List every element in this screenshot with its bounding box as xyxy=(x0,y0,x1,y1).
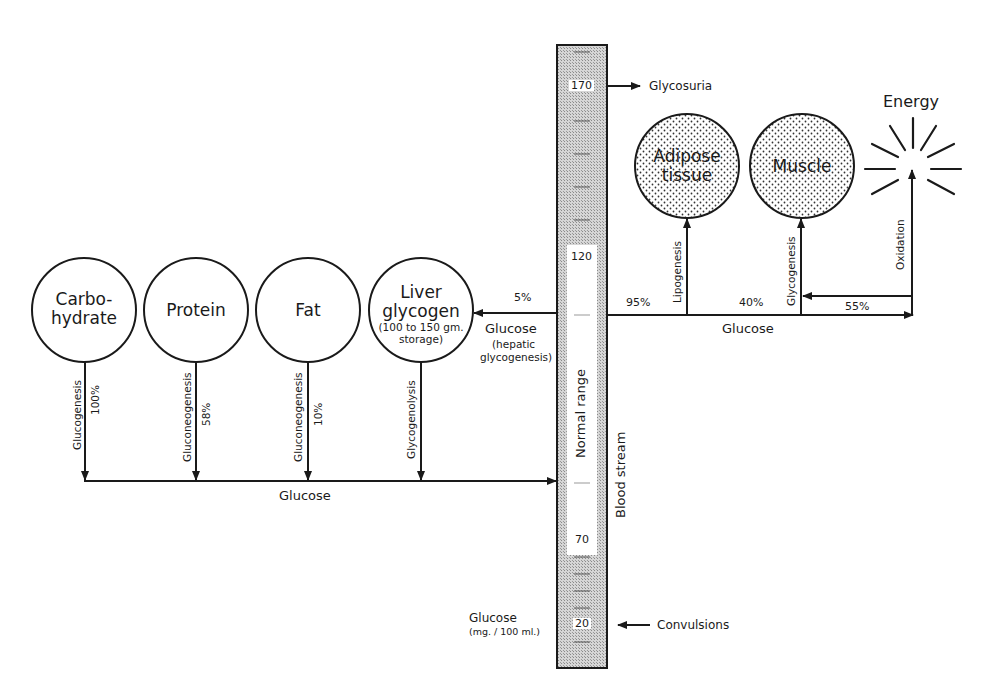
tick-170: 170 xyxy=(569,80,594,91)
glucogenesis-percent: 100% xyxy=(90,385,101,415)
adipose-label-line2: tissue xyxy=(637,166,737,185)
tick-120: 120 xyxy=(569,251,594,262)
fat-percent: 10% xyxy=(313,403,324,426)
normal-range-label: Normal range xyxy=(574,369,587,458)
carbohydrate-label-line1: Carbo- xyxy=(34,290,134,309)
hepatic-sub1: (hepatic xyxy=(492,339,535,350)
bloodstream-column xyxy=(557,45,607,668)
protein-percent: 58% xyxy=(201,403,212,426)
glucose-axis-unit: (mg. / 100 ml.) xyxy=(469,627,540,637)
oxidation-label: Oxidation xyxy=(895,219,906,270)
fat-label-text: Fat xyxy=(258,301,358,320)
convulsions-label: Convulsions xyxy=(657,619,729,631)
right-percent-95: 95% xyxy=(626,297,650,308)
lipogenesis-label: Lipogenesis xyxy=(672,241,683,303)
hepatic-glucose-label: Glucose xyxy=(485,322,537,335)
energy-label: Energy xyxy=(883,94,939,110)
glycosuria-label: Glycosuria xyxy=(649,80,712,92)
liver-label-line1: Liver xyxy=(371,283,471,302)
adipose-tissue-label: Adipose tissue xyxy=(637,147,737,184)
fat-label: Fat xyxy=(258,301,358,320)
hepatic-sub2: glycogenesis) xyxy=(480,352,552,363)
glycogenolysis-label: Glycogenolysis xyxy=(406,380,417,459)
right-percent-55: 55% xyxy=(845,301,869,312)
tick-20: 20 xyxy=(573,618,591,629)
protein-label: Protein xyxy=(146,301,246,320)
tick-70: 70 xyxy=(573,534,591,545)
protein-gluconeogenesis-label: Gluconeogenesis xyxy=(182,372,193,462)
glucose-axis-label: Glucose xyxy=(469,612,517,624)
muscle-label: Muscle xyxy=(752,157,852,176)
bottom-glucose-label: Glucose xyxy=(279,489,331,502)
carbohydrate-label-line2: hydrate xyxy=(34,309,134,328)
right-percent-40: 40% xyxy=(739,297,763,308)
right-glucose-label: Glucose xyxy=(722,322,774,335)
protein-label-text: Protein xyxy=(146,301,246,320)
hepatic-percent: 5% xyxy=(514,292,531,303)
blood-stream-label: Blood stream xyxy=(614,432,627,518)
glucogenesis-label: Glucogenesis xyxy=(72,380,83,450)
liver-label-line2: glycogen xyxy=(371,302,471,321)
fat-gluconeogenesis-label: Gluconeogenesis xyxy=(293,372,304,462)
liver-glycogen-label: Liver glycogen (100 to 150 gm. storage) xyxy=(371,283,471,345)
liver-label-line4: storage) xyxy=(371,334,471,346)
glycogenesis-label: Glycogenesis xyxy=(786,236,797,306)
carbohydrate-label: Carbo- hydrate xyxy=(34,290,134,327)
adipose-label-line1: Adipose xyxy=(637,147,737,166)
muscle-label-text: Muscle xyxy=(752,157,852,176)
